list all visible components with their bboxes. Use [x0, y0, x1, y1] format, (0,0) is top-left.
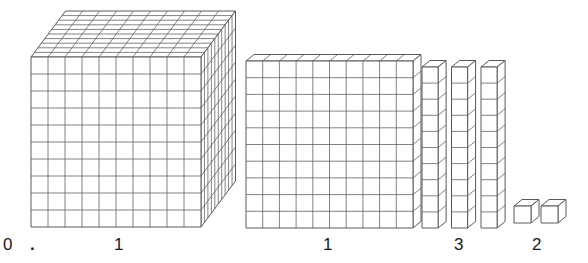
- unit-cubes-1-front-outline: [514, 206, 531, 223]
- ten-rods-3-front-face: [481, 67, 497, 228]
- ten-rods-1-right-face: [438, 61, 446, 229]
- place-label-thousandths: 3: [454, 236, 463, 253]
- ten-rods-2-right-face: [468, 61, 476, 229]
- ten-rods-3-right-face: [497, 61, 505, 229]
- thousand-cube-front-face: [31, 57, 201, 227]
- decimal-point-label: .: [30, 236, 35, 253]
- place-label-tenths: 1: [114, 236, 123, 253]
- thousand-cube-top-face: [31, 11, 236, 57]
- hundred-flat-front-face: [246, 61, 413, 228]
- ten-rods-2-front-face: [452, 67, 468, 228]
- unit-cubes-2-front-face: [541, 206, 558, 223]
- place-label-ones: 0: [3, 236, 12, 253]
- unit-cubes-1-front-face: [514, 206, 531, 223]
- ten-rods-1-front-face: [422, 67, 438, 228]
- blocks-canvas: [0, 0, 588, 263]
- place-label-hundredths: 1: [323, 236, 332, 253]
- place-label-ten-thousandths: 2: [532, 236, 541, 253]
- base-ten-blocks-figure: 0 . 1 1 3 2: [0, 0, 588, 263]
- hundred-flat-right-face: [413, 55, 421, 229]
- hundred-flat-top-face: [246, 55, 421, 62]
- unit-cubes-2-front-outline: [541, 206, 558, 223]
